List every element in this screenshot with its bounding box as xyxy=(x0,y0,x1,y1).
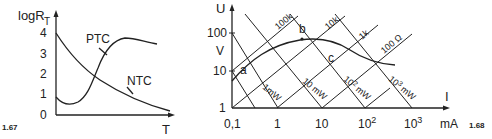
point-a-label: a xyxy=(240,63,247,77)
point-b-marker xyxy=(300,37,303,40)
x-tick-0-1: 0,1 xyxy=(224,117,241,131)
y-axis-arrow-icon xyxy=(54,10,59,17)
y-tick-4: 4 xyxy=(40,26,47,40)
y-tick-1: 1 xyxy=(40,87,47,101)
figure-number-1-68: 1.68 xyxy=(469,121,485,130)
y-tick-0: 0 xyxy=(40,108,47,122)
chart-1-67 xyxy=(54,10,176,118)
x-tick-1: 1 xyxy=(274,117,281,131)
y-tick-100: 100 xyxy=(207,26,227,40)
x-axis-label: I xyxy=(445,89,449,104)
y-tick-2: 2 xyxy=(40,67,47,81)
x-unit: mA xyxy=(440,117,458,131)
point-b-label: b xyxy=(299,22,306,36)
x-axis-arrow-icon xyxy=(168,113,175,118)
x-tick-100: 102 xyxy=(358,115,376,131)
y-tick-1: 1 xyxy=(219,101,226,115)
ntc-curve xyxy=(56,33,170,111)
y-unit: V xyxy=(216,44,224,58)
x-tick-10: 10 xyxy=(315,117,329,131)
y-axis-arrow-icon xyxy=(230,4,235,11)
figure-canvas: logR T 4 3 2 1 0 PTC NTC T 1.67 xyxy=(0,0,492,139)
ptc-curve xyxy=(56,38,157,104)
label-10k: 10k xyxy=(323,14,341,31)
ntc-label: NTC xyxy=(127,74,152,88)
figure-number-1-67: 1.67 xyxy=(2,123,18,132)
label-1mw: 1mW xyxy=(261,82,284,103)
y-tick-3: 3 xyxy=(40,47,47,61)
ntc-leader xyxy=(127,87,133,94)
label-1k: 1k xyxy=(357,27,371,41)
y-axis-label: logR xyxy=(18,8,45,23)
x-axis-label: T xyxy=(162,122,170,137)
point-c-label: c xyxy=(328,51,334,65)
label-1000mw: 103mW xyxy=(387,73,419,102)
x-tick-1000: 103 xyxy=(404,115,422,131)
characteristic-curve xyxy=(232,39,395,81)
y-axis-label: U xyxy=(216,1,225,16)
y-tick-10: 10 xyxy=(213,64,227,78)
ptc-label: PTC xyxy=(86,32,110,46)
label-10mw: 10 mW xyxy=(301,76,330,102)
x-axis-arrow-icon xyxy=(443,106,450,111)
